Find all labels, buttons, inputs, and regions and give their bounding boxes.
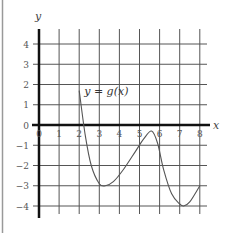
- y-tick-label: −4: [16, 202, 30, 212]
- y-axis-label: y: [34, 10, 42, 23]
- x-tick-label: 3: [96, 129, 102, 139]
- x-tick-label: 5: [137, 129, 143, 139]
- x-tick-label: 4: [117, 129, 123, 139]
- y-tick-label: −3: [16, 181, 30, 191]
- y-tick-label: −1: [16, 141, 29, 151]
- x-tick-label: 2: [76, 129, 82, 139]
- y-tick-label: 4: [23, 40, 29, 50]
- y-tick-label: 0: [23, 121, 29, 131]
- x-axis-label: x: [213, 119, 220, 132]
- graph-of-g: 01234567843210−1−2−3−4xyy = g(x): [0, 0, 231, 233]
- y-tick-label: −2: [16, 161, 29, 171]
- x-tick-label: 1: [56, 129, 62, 139]
- y-tick-label: 2: [23, 80, 29, 90]
- curve-annotation: y = g(x): [83, 85, 128, 98]
- x-tick-label: 6: [157, 129, 163, 139]
- x-tick-label: 8: [197, 129, 203, 139]
- x-tick-label: 0: [36, 129, 42, 139]
- x-tick-label: 7: [177, 129, 183, 139]
- y-tick-label: 1: [23, 100, 29, 110]
- y-tick-label: 3: [23, 60, 29, 70]
